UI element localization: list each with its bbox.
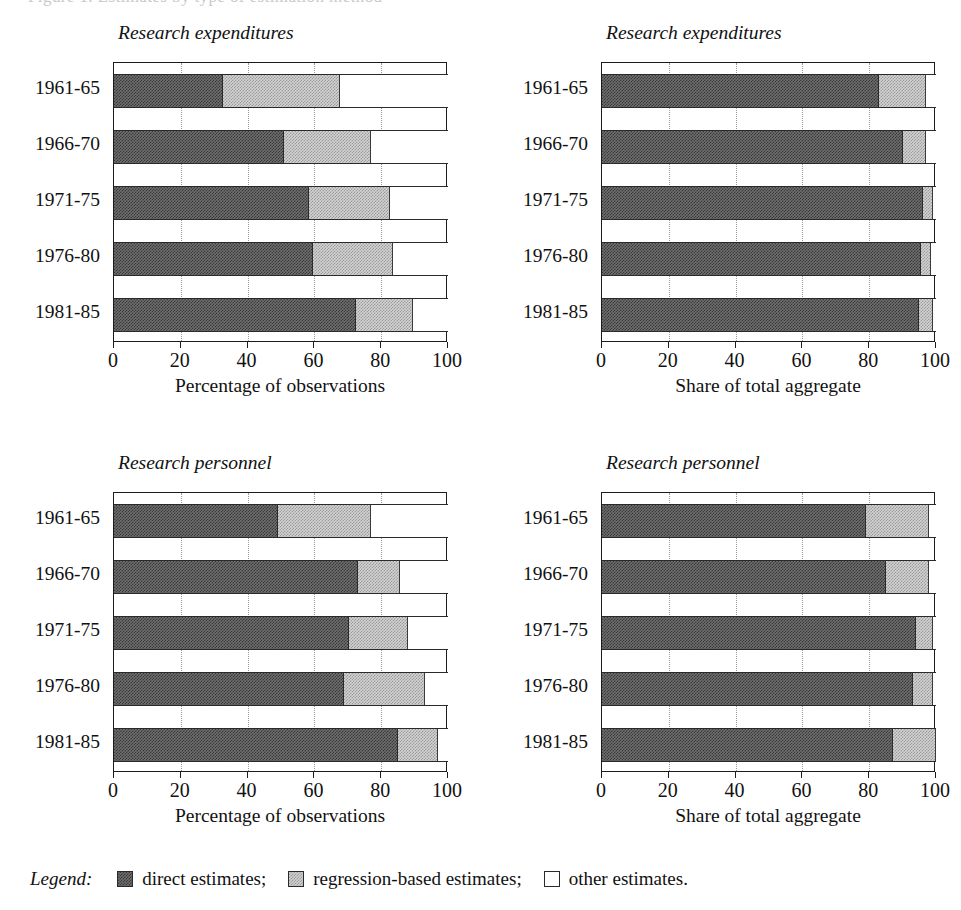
- light-hatched-swatch: [288, 871, 304, 887]
- bar-row: [114, 298, 448, 332]
- bar-segment-regression: [916, 617, 933, 649]
- bar-segment-regression: [278, 505, 372, 537]
- bar-row: [602, 504, 936, 538]
- x-axis-tick: [180, 342, 181, 348]
- bar-segment-direct: [114, 131, 284, 163]
- x-axis-tick: [380, 342, 381, 348]
- x-axis-title: Percentage of observations: [113, 375, 447, 397]
- x-axis-title: Share of total aggregate: [601, 805, 935, 827]
- bar-segment-other: [425, 673, 448, 705]
- x-axis-tick: [801, 342, 802, 348]
- x-axis-tick-label: 0: [108, 779, 118, 802]
- bar-segment-direct: [114, 729, 398, 761]
- legend: Legend: direct estimates;regression-base…: [30, 868, 688, 890]
- x-axis-tick: [601, 772, 602, 778]
- bar-segment-direct: [114, 505, 278, 537]
- bar-segment-regression: [879, 75, 926, 107]
- empty-swatch: [544, 871, 560, 887]
- bar-segment-direct: [114, 673, 344, 705]
- bar-segment-direct: [602, 729, 893, 761]
- bar-segment-direct: [602, 243, 921, 275]
- x-axis-tick: [447, 342, 448, 348]
- bar-segment-regression: [903, 131, 926, 163]
- x-axis-tick: [180, 772, 181, 778]
- bar-segment-regression: [893, 729, 936, 761]
- bar-segment-regression: [358, 561, 400, 593]
- bar-segment-direct: [602, 299, 919, 331]
- x-axis-tick: [735, 772, 736, 778]
- x-axis-tick: [247, 342, 248, 348]
- bar-segment-regression: [866, 505, 929, 537]
- bar-segment-other: [408, 617, 448, 649]
- bar-row: [602, 728, 936, 762]
- bar-row: [114, 504, 448, 538]
- bar-segment-other: [438, 729, 448, 761]
- bar-segment-direct: [602, 561, 886, 593]
- bar-segment-other: [413, 299, 448, 331]
- bar-segment-other: [933, 617, 936, 649]
- x-axis-tick: [935, 772, 936, 778]
- bar-row: [602, 672, 936, 706]
- bar-segment-regression: [913, 673, 933, 705]
- bar-segment-direct: [602, 617, 916, 649]
- bar-segment-regression: [349, 617, 407, 649]
- x-axis-title: Percentage of observations: [113, 805, 447, 827]
- x-axis-tick: [313, 342, 314, 348]
- x-axis-tick-label: 20: [658, 349, 678, 372]
- bar-row: [602, 130, 936, 164]
- bar-segment-other: [933, 187, 936, 219]
- x-axis-tick-label: 100: [920, 779, 950, 802]
- x-axis-tick-label: 40: [725, 349, 745, 372]
- x-axis-title: Share of total aggregate: [601, 375, 935, 397]
- x-axis-tick-label: 40: [237, 779, 257, 802]
- x-axis-tick: [935, 342, 936, 348]
- bar-segment-other: [371, 131, 448, 163]
- x-axis-tick: [668, 772, 669, 778]
- bar-segment-other: [371, 505, 448, 537]
- bar-row: [114, 616, 448, 650]
- x-axis-tick: [735, 342, 736, 348]
- bar-segment-other: [926, 75, 936, 107]
- plot-area: [601, 62, 935, 342]
- x-axis-tick: [601, 342, 602, 348]
- bar-segment-direct: [602, 187, 923, 219]
- bar-segment-regression: [919, 299, 932, 331]
- cut-off-figure-caption: Figure 1. Estimates by type of estimatio…: [0, 0, 961, 8]
- bar-segment-direct: [602, 505, 866, 537]
- bar-row: [602, 560, 936, 594]
- bar-row: [602, 616, 936, 650]
- legend-label: Legend:: [30, 868, 92, 890]
- dark-hatched-swatch: [117, 871, 133, 887]
- bar-row: [114, 672, 448, 706]
- chart-title: Research personnel: [606, 452, 760, 474]
- bar-row: [114, 74, 448, 108]
- bar-segment-direct: [602, 131, 903, 163]
- bar-segment-regression: [344, 673, 424, 705]
- bar-segment-regression: [398, 729, 438, 761]
- x-axis-tick-label: 0: [596, 779, 606, 802]
- x-axis-tick: [868, 342, 869, 348]
- bar-row: [602, 242, 936, 276]
- x-axis-tick-label: 60: [791, 349, 811, 372]
- bar-segment-other: [933, 299, 936, 331]
- plot-area: [601, 492, 935, 772]
- bar-segment-other: [400, 561, 448, 593]
- legend-entry-label: regression-based estimates;: [313, 868, 521, 890]
- legend-entry-direct-estimates: direct estimates;: [117, 868, 266, 890]
- bar-segment-other: [929, 505, 936, 537]
- legend-entry-label: other estimates.: [569, 868, 688, 890]
- bar-segment-regression: [886, 561, 929, 593]
- bar-row: [114, 560, 448, 594]
- legend-entry-regression-based-estimates: regression-based estimates;: [288, 868, 521, 890]
- x-axis-tick: [113, 342, 114, 348]
- x-axis-tick-label: 60: [303, 349, 323, 372]
- x-axis-tick-label: 20: [170, 349, 190, 372]
- x-axis-tick-label: 40: [725, 779, 745, 802]
- x-axis-tick: [447, 772, 448, 778]
- x-axis-tick-label: 0: [108, 349, 118, 372]
- bar-row: [114, 242, 448, 276]
- bar-row: [114, 186, 448, 220]
- bar-segment-direct: [602, 673, 913, 705]
- x-axis-tick-label: 100: [432, 779, 462, 802]
- bar-row: [114, 130, 448, 164]
